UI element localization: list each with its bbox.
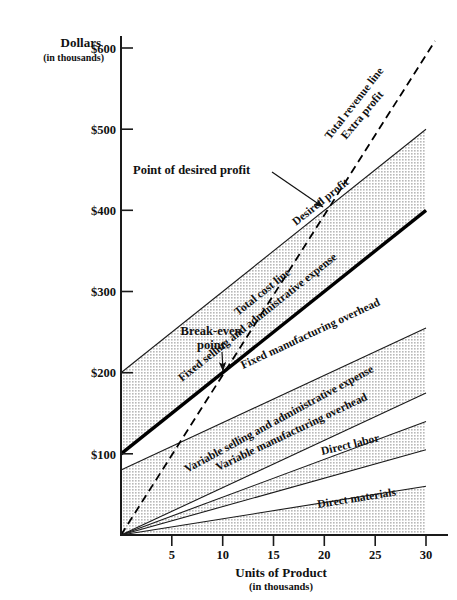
cvp-chart-svg: $600 $500 $400 $300 $200 $100 5 10 15 20…: [0, 0, 457, 600]
y-tick-label-300: $300: [91, 285, 116, 299]
leader-point-of-desired-profit: [272, 172, 323, 207]
x-tick-label-5: 5: [169, 548, 175, 562]
x-tick-label-10: 10: [216, 548, 229, 562]
y-tick-label-500: $500: [91, 123, 116, 137]
x-tick-label-15: 15: [267, 548, 280, 562]
x-axis-title: Units of Product: [235, 565, 327, 580]
x-axis-subtitle: (in thousands): [249, 581, 313, 593]
callout-break-even-line1: Break-even: [181, 324, 242, 338]
y-tick-label-100: $100: [91, 448, 116, 462]
x-tick-label-30: 30: [420, 548, 433, 562]
x-tick-label-20: 20: [318, 548, 331, 562]
cvp-chart: $600 $500 $400 $300 $200 $100 5 10 15 20…: [0, 0, 457, 600]
y-tick-label-400: $400: [91, 204, 116, 218]
callout-point-of-desired-profit: Point of desired profit: [133, 163, 251, 177]
y-axis-title: Dollars: [61, 35, 101, 50]
x-tick-label-25: 25: [369, 548, 382, 562]
y-axis-subtitle: (in thousands): [43, 52, 104, 64]
callout-break-even-line2: point: [197, 338, 226, 352]
y-tick-label-200: $200: [91, 366, 116, 380]
